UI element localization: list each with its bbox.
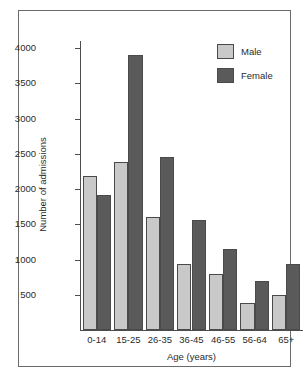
legend-swatch-female	[217, 68, 234, 83]
bar-female-65+	[286, 264, 300, 330]
figure-frame: Number of admissions 5001000150020002500…	[18, 10, 291, 367]
bar-female-36-45	[192, 220, 206, 330]
y-tick-label: 500	[20, 290, 36, 300]
y-tick-label: 2000	[15, 184, 36, 194]
bar-female-0-14	[97, 195, 111, 330]
legend-item-female: Female	[217, 68, 273, 83]
y-tick-label: 1000	[15, 255, 36, 265]
bar-male-15-25	[114, 162, 128, 330]
x-axis-title: Age (years)	[81, 351, 302, 362]
bar-female-46-55	[223, 249, 237, 330]
x-axis-line	[80, 330, 303, 331]
legend-label-male: Male	[241, 46, 262, 57]
legend-swatch-male	[217, 44, 234, 59]
y-tick-mark	[75, 154, 80, 155]
y-tick-label: 1500	[15, 219, 36, 229]
legend-label-female: Female	[241, 70, 273, 81]
chart-legend: Male Female	[217, 44, 273, 92]
x-tick-label: 26-35	[144, 334, 176, 345]
y-tick-label: 3500	[15, 78, 36, 88]
y-tick-mark	[75, 224, 80, 225]
y-tick-label: 4000	[15, 43, 36, 53]
bar-male-36-45	[177, 264, 191, 330]
y-tick-label: 2500	[15, 149, 36, 159]
bar-female-56-64	[255, 281, 269, 330]
bar-male-0-14	[83, 176, 97, 330]
bar-female-15-25	[128, 55, 142, 330]
y-tick-mark	[75, 48, 80, 49]
bar-male-65+	[272, 295, 286, 330]
bar-female-26-35	[160, 157, 174, 330]
bar-male-46-55	[209, 274, 223, 330]
bar-male-26-35	[146, 217, 160, 330]
y-axis-title: Number of admissions	[37, 110, 48, 260]
y-tick-mark	[75, 119, 80, 120]
y-tick-label: 3000	[15, 114, 36, 124]
y-tick-mark	[75, 295, 80, 296]
x-tick-label: 65+	[270, 334, 302, 345]
y-tick-mark	[75, 83, 80, 84]
x-tick-label: 36-45	[176, 334, 208, 345]
x-tick-label: 15-25	[113, 334, 145, 345]
y-tick-mark	[75, 189, 80, 190]
x-tick-label: 0-14	[81, 334, 113, 345]
x-tick-label: 56-64	[239, 334, 271, 345]
y-tick-mark	[75, 260, 80, 261]
legend-item-male: Male	[217, 44, 273, 59]
x-tick-label: 46-55	[207, 334, 239, 345]
bar-male-56-64	[240, 303, 254, 330]
